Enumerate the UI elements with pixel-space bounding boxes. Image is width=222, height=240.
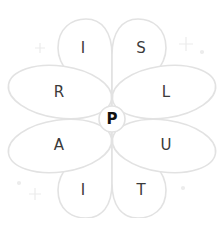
- petal-letter[interactable]: A: [44, 135, 74, 155]
- sparkle-icon: [29, 188, 41, 200]
- petal-letter[interactable]: U: [151, 135, 181, 155]
- sparkle-icon: [35, 43, 45, 53]
- petal-letter[interactable]: T: [126, 180, 156, 200]
- sparkle-icon: [182, 187, 185, 190]
- sparkle-icon: [201, 51, 204, 54]
- petal-letter[interactable]: I: [68, 38, 98, 58]
- center-letter[interactable]: P: [99, 106, 125, 132]
- sparkle-icon: [179, 37, 193, 51]
- petal-letter[interactable]: I: [68, 180, 98, 200]
- petal-letter[interactable]: S: [126, 38, 156, 58]
- petal-letter[interactable]: L: [151, 82, 181, 102]
- petal-letter[interactable]: R: [44, 82, 74, 102]
- sparkle-icon: [18, 182, 21, 185]
